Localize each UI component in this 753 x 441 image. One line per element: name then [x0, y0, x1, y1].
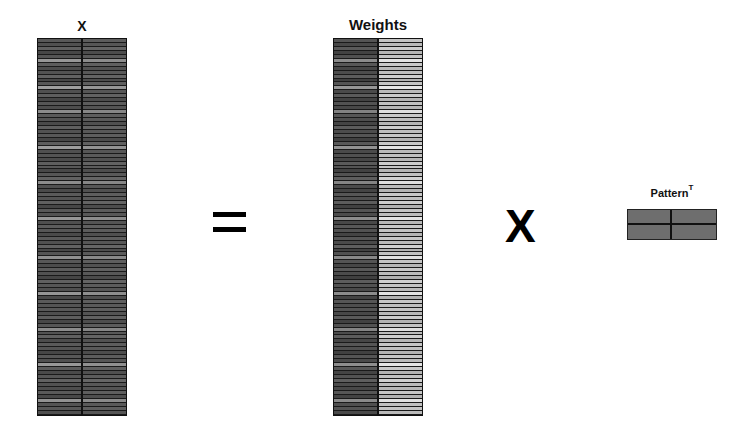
pattern-t-label-text: Pattern	[651, 187, 689, 199]
pattern-cell-r2c2	[672, 225, 716, 240]
equals-bar-bottom	[213, 227, 246, 232]
pattern-cell-r1c1	[628, 210, 672, 225]
weights-cell	[334, 411, 377, 415]
weights-matrix	[333, 38, 423, 416]
weights-column-1	[334, 39, 377, 415]
transpose-superscript: T	[689, 183, 694, 192]
x-column-2	[81, 39, 126, 415]
x-cell	[38, 411, 81, 415]
weights-cell	[379, 411, 422, 415]
weights-matrix-label: Weights	[318, 16, 438, 33]
pattern-t-label: PatternT	[622, 185, 722, 199]
equals-bar-top	[213, 212, 246, 217]
x-cell	[83, 411, 126, 415]
equals-operator	[213, 212, 246, 234]
pattern-cell-r2c1	[628, 225, 672, 240]
multiply-operator: X	[505, 203, 536, 249]
x-matrix	[37, 38, 127, 416]
x-column-1	[38, 39, 81, 415]
weights-column-2	[377, 39, 422, 415]
pattern-t-matrix	[627, 209, 717, 240]
x-matrix-label: X	[37, 18, 127, 34]
pattern-cell-r1c2	[672, 210, 716, 225]
